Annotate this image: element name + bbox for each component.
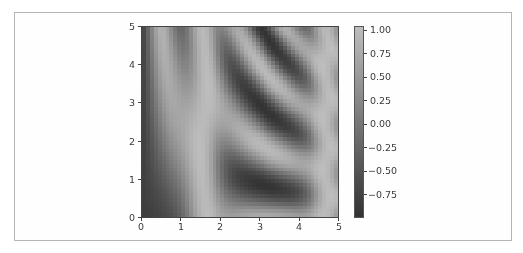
- x-tick-label: 4: [296, 222, 302, 232]
- colorbar-tick-label: 1.00: [370, 25, 391, 35]
- y-tick-label: 1: [129, 175, 135, 185]
- y-tick-label: 4: [129, 60, 135, 70]
- colorbar: [354, 26, 364, 218]
- colorbar-tick-label: 0.75: [370, 49, 391, 59]
- heatmap-plot-area: [141, 26, 339, 218]
- colorbar-tick-label: −0.25: [368, 143, 397, 153]
- x-tick-label: 3: [257, 222, 263, 232]
- colorbar-tick-label: 0.50: [370, 72, 391, 82]
- y-tick-label: 5: [129, 22, 135, 32]
- x-tick-label: 5: [336, 222, 342, 232]
- colorbar-tick-label: −0.50: [368, 166, 397, 176]
- colorbar-gradient: [355, 27, 363, 217]
- colorbar-tick-label: 0.00: [370, 119, 391, 129]
- y-tick-label: 3: [129, 98, 135, 108]
- y-tick-label: 2: [129, 137, 135, 147]
- x-tick-label: 2: [217, 222, 223, 232]
- colorbar-tick-label: 0.25: [370, 96, 391, 106]
- colorbar-tick-label: −0.75: [368, 190, 397, 200]
- x-tick-label: 0: [138, 222, 144, 232]
- x-tick-label: 1: [178, 222, 184, 232]
- heatmap-canvas: [142, 27, 338, 217]
- y-tick-label: 0: [129, 213, 135, 223]
